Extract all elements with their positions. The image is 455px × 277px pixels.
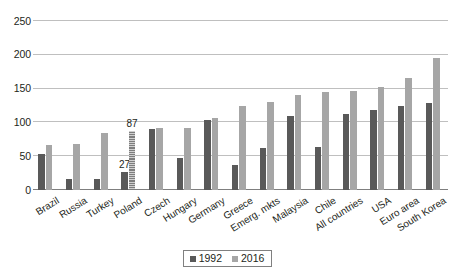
bars-layer: 2787 [33,21,448,190]
legend-swatch-icon [232,256,238,262]
bar-2016 [156,128,163,190]
y-axis: 050100150200250 [0,21,31,190]
bar-2016 [129,131,136,190]
bar-1992 [426,103,433,190]
y-tick-label-50: 50 [1,151,31,162]
bar-2016 [295,95,302,190]
bar-1992 [398,106,405,190]
x-label-poland: Poland [110,193,142,219]
bar-1992 [315,147,322,190]
bar-group [144,21,172,190]
bar-group [420,21,448,190]
bar-group [310,21,338,190]
bar-1992 [287,116,294,190]
bar-2016 [73,144,80,190]
bar-2016 [350,91,357,190]
bar-2016 [433,58,440,190]
bar-2016 [101,133,108,190]
bar-2016 [405,78,412,190]
legend-item-1992[interactable]: 1992 [190,253,222,264]
bar-group [61,21,89,190]
legend-label: 2016 [241,253,264,264]
bar-2016 [322,92,329,190]
bar-group: 2787 [116,21,144,190]
bar-group [33,21,61,190]
y-tick-label-150: 150 [1,83,31,94]
bar-2016 [46,145,53,190]
legend-box: 19922016 [183,250,273,267]
bar-group [282,21,310,190]
y-tick-label-100: 100 [1,117,31,128]
bar-2016 [184,128,191,190]
bar-1992 [204,120,211,190]
y-tick-label-250: 250 [1,16,31,27]
x-label-brazil: Brazil [33,193,60,216]
bar-1992 [121,172,128,190]
bar-1992 [343,114,350,190]
x-label-turkey: Turkey [84,193,115,218]
bar-chart: 050100150200250 2787 BrazilRussiaTurkeyP… [0,0,455,277]
legend-item-2016[interactable]: 2016 [232,253,264,264]
x-axis-category-labels: BrazilRussiaTurkeyPolandCzechHungaryGerm… [33,191,448,251]
bar-1992 [66,179,73,190]
chart-legend: 19922016 [0,250,455,267]
bar-group [227,21,255,190]
bar-1992 [149,129,156,190]
y-tick-label-0: 0 [1,185,31,196]
bar-1992 [260,148,267,190]
bar-2016 [378,87,385,190]
bar-2016 [212,118,219,190]
legend-swatch-icon [190,256,196,262]
bar-1992 [232,165,239,190]
legend-label: 1992 [199,253,222,264]
bar-2016 [239,106,246,190]
x-label-russia: Russia [56,193,88,219]
bar-group [254,21,282,190]
bar-1992 [370,110,377,190]
bar-1992 [94,179,101,190]
bar-group [199,21,227,190]
bar-value-label: 87 [119,119,145,129]
bar-1992 [38,154,45,190]
bar-group [365,21,393,190]
bar-group [337,21,365,190]
bar-group [171,21,199,190]
bar-group [393,21,421,190]
bar-1992 [177,158,184,190]
bar-2016 [267,102,274,190]
y-tick-label-200: 200 [1,49,31,60]
